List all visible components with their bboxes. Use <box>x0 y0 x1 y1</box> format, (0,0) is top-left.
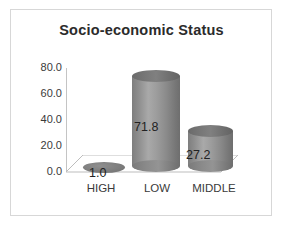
y-tick-1: 20.0 <box>16 140 62 151</box>
category-label-middle: MIDDLE <box>182 182 246 194</box>
bar-label-low: 71.8 <box>134 120 158 134</box>
y-axis-tick-labels: 0.0 20.0 40.0 60.0 80.0 <box>16 62 62 178</box>
y-tick-3: 60.0 <box>16 88 62 99</box>
y-tick-4: 80.0 <box>16 62 62 73</box>
chart-screenshot: Socio-economic Status 0.0 20.0 40.0 60.0… <box>0 0 283 227</box>
bar-low-bottom-ellipse <box>132 160 180 172</box>
category-label-high: HIGH <box>70 182 132 194</box>
y-tick-0: 0.0 <box>16 166 62 177</box>
bar-label-high: 1.0 <box>89 166 106 180</box>
bar-label-middle: 27.2 <box>186 148 210 162</box>
category-label-low: LOW <box>127 182 187 194</box>
bar-middle-top-ellipse <box>188 125 233 137</box>
plot-area: 0.0 20.0 40.0 60.0 80.0 1.0 71.8 <box>0 0 283 227</box>
bar-low-top-ellipse <box>132 70 180 82</box>
y-tick-2: 40.0 <box>16 114 62 125</box>
